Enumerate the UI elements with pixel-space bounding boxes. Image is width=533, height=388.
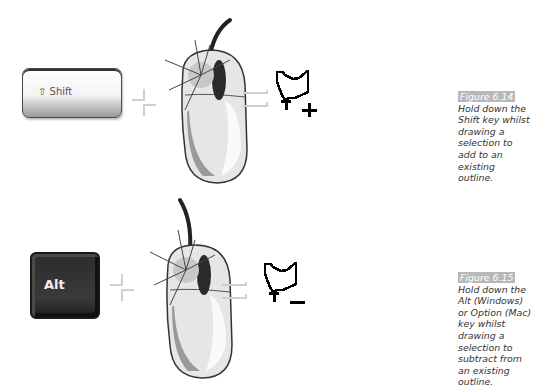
lasso-add-cursor-icon [275,70,345,125]
lasso-subtract-cursor-icon [263,262,333,317]
figure-6-15-label: Figure 6.15 [458,272,515,283]
figure-6-14-label: Figure 6.14 [458,91,515,102]
equals-sign-icon [243,90,269,110]
caption-text: Hold down the Shift key whilst drawing a… [458,103,530,184]
figure-6-14-caption: Figure 6.14 Hold down the Shift key whil… [458,91,533,184]
equals-sign-icon [222,282,248,302]
caption-text: Hold down the Alt (Windows) or Option (M… [458,284,531,388]
alt-key-illustration: Alt [30,252,100,319]
figure-6-15-caption: Figure 6.15 Hold down the Alt (Windows) … [458,272,533,388]
mouse-click-icon [155,0,255,185]
plus-sign-icon [108,270,138,306]
shift-key-illustration: ⇧ Shift [22,68,122,118]
shift-key-label: ⇧ Shift [38,86,72,97]
alt-key-label: Alt [44,277,65,292]
